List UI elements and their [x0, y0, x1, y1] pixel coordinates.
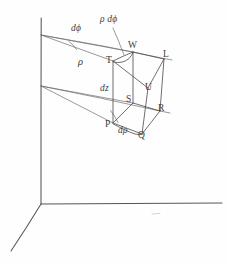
figure-canvas: dϕ ρ dϕ ρ dz dρ T W L U S R P Q [0, 0, 227, 265]
label-d-phi: dϕ [71, 24, 81, 34]
prism-top-face [113, 52, 164, 88]
label-rho-d-phi: ρ dϕ [100, 15, 117, 25]
vertex-label-L: L [163, 50, 169, 60]
label-rho: ρ [78, 57, 83, 68]
diagram-svg [0, 0, 227, 265]
paper-smudge [152, 213, 160, 214]
vertex-label-P: P [105, 120, 110, 130]
ray-upper-to-T [41, 35, 113, 61]
vertex-label-W: W [128, 41, 137, 51]
lower-arc [111, 111, 119, 123]
label-d-rho: dρ [118, 126, 128, 136]
vertex-label-S: S [126, 95, 131, 105]
edge-P-S [113, 103, 133, 123]
x-axis-line [41, 203, 222, 204]
rho-d-phi-leader-line [113, 28, 124, 55]
y-axis-line [11, 204, 41, 251]
edge-U-T [113, 61, 148, 88]
leader-group [113, 28, 124, 55]
vertex-label-R: R [158, 104, 165, 114]
vertex-label-T: T [106, 56, 112, 66]
vertex-label-U: U [145, 83, 152, 93]
edge-S-R [133, 103, 160, 111]
label-dz: dz [100, 84, 109, 94]
axes-group [11, 18, 222, 251]
edge-W-L [133, 52, 164, 59]
prism-vertical-edges [113, 52, 164, 134]
vertex-label-Q: Q [138, 131, 145, 141]
